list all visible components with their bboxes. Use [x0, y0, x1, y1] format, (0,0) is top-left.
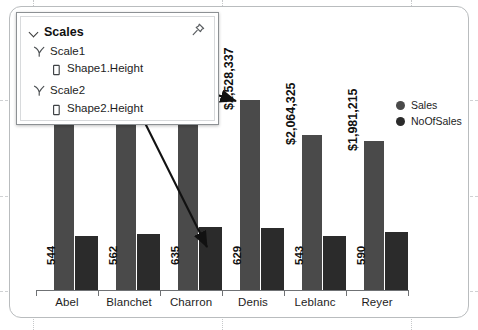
scale-curve-icon [33, 44, 46, 57]
x-axis-label-charron: Charron [156, 296, 226, 308]
bar-noofsales-charron[interactable] [199, 227, 222, 290]
legend-swatch-icon [396, 117, 405, 126]
scale-curve-icon [33, 83, 46, 96]
legend-swatch-icon [396, 101, 405, 110]
value-label-noofsales-reyer: 590 [355, 246, 367, 265]
scales-panel-title: Scales [44, 25, 84, 39]
legend-label-sales: Sales [411, 99, 437, 111]
tree-node-label-scale2: Scale2 [50, 84, 85, 96]
tree-node-shape2-height[interactable]: Shape2.Height [51, 102, 143, 114]
bar-sales-denis[interactable] [240, 100, 260, 290]
bar-noofsales-blanchet[interactable] [137, 234, 160, 290]
bar-noofsales-abel[interactable] [75, 236, 98, 290]
x-axis-label-blanchet: Blanchet [94, 296, 164, 308]
value-label-noofsales-charron: 635 [169, 246, 181, 265]
legend-item-sales[interactable]: Sales [396, 99, 462, 111]
bar-noofsales-denis[interactable] [261, 228, 284, 290]
legend-item-noofsales[interactable]: NoOfSales [396, 115, 462, 127]
value-label-sales-leblanc: $2,064,325 [284, 82, 298, 145]
value-label-sales-denis: $2,528,337 [222, 47, 236, 110]
x-axis-label-leblanc: Leblanc [280, 296, 350, 308]
value-label-noofsales-abel: 544 [45, 246, 57, 265]
bar-noofsales-reyer[interactable] [385, 232, 408, 290]
pushpin-icon[interactable] [190, 22, 206, 38]
tree-node-shape1-height[interactable]: Shape1.Height [51, 62, 143, 74]
value-label-noofsales-leblanc: 543 [293, 246, 305, 265]
screenshot-root: Abel Blanchet Charron Denis Leblanc Reye… [0, 0, 478, 330]
legend-label-noofsales: NoOfSales [411, 115, 462, 127]
value-label-noofsales-blanchet: 562 [107, 246, 119, 265]
x-axis-label-denis: Denis [218, 296, 288, 308]
chart-legend: Sales NoOfSales [396, 99, 462, 131]
value-label-sales-reyer: $1,981,215 [346, 88, 360, 151]
tree-node-scale1[interactable]: Scale1 [33, 44, 85, 57]
chevron-down-icon[interactable] [29, 27, 39, 37]
tree-node-label-shape1-height: Shape1.Height [67, 62, 143, 74]
tree-node-scale2[interactable]: Scale2 [33, 83, 85, 96]
scales-panel-inner: Scales Scale1 [20, 16, 215, 121]
scales-panel[interactable]: Scales Scale1 [16, 12, 219, 125]
property-box-icon [51, 62, 62, 74]
tree-node-label-scale1: Scale1 [50, 45, 85, 57]
value-label-noofsales-denis: 629 [231, 246, 243, 265]
tree-node-label-shape2-height: Shape2.Height [67, 102, 143, 114]
scales-panel-header[interactable]: Scales [29, 23, 206, 41]
x-axis-label-reyer: Reyer [342, 296, 412, 308]
property-box-icon [51, 102, 62, 114]
bar-noofsales-leblanc[interactable] [323, 236, 346, 290]
bar-sales-reyer[interactable] [364, 141, 384, 290]
x-axis-label-abel: Abel [32, 296, 102, 308]
bar-sales-leblanc[interactable] [302, 135, 322, 290]
